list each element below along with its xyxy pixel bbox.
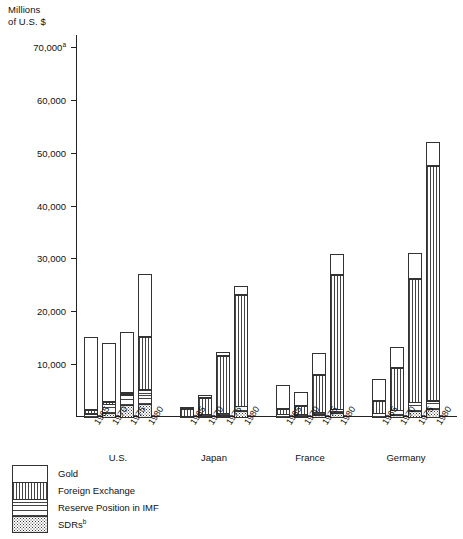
legend-label-gold: Gold [58,468,78,479]
legend-item-gold: Gold [12,465,159,482]
bar-germany-1975 [408,251,422,417]
y-tick-label-40000: 40,000 [4,200,66,211]
country-label-france: France [295,452,325,463]
y-tick-10000 [71,364,77,365]
y-axis-line [76,35,77,417]
bar-germany-1980 [426,140,440,418]
segment-imf [138,390,152,405]
y-tick-20000 [71,311,77,312]
legend-swatch-sdrs [12,516,48,533]
segment-gold [294,392,308,406]
segment-fx [330,275,344,410]
y-tick-30000 [71,258,77,259]
y-axis-title: Millions of U.S. $ [8,4,46,28]
y-tick-70000 [71,47,77,48]
country-label-germany: Germany [386,452,425,463]
legend-item-foreign-exchange: Foreign Exchange [12,482,159,499]
segment-gold [390,347,404,368]
y-tick-label-50000: 50,000 [4,147,66,158]
y-tick-60000 [71,100,77,101]
segment-gold [330,254,344,275]
reserves-stacked-bar-chart: Millions of U.S. $ 70,000a60,00050,00040… [0,0,463,539]
plot-area: 70,000a60,00050,00040,00030,00020,00010,… [76,47,457,417]
segment-fx [426,166,440,402]
legend-label-sdrs-text: SDRs [58,520,83,531]
segment-gold [138,274,152,337]
segment-gold [102,343,116,402]
y-tick-label-70000: 70,000a [4,41,66,53]
y-tick-label-20000: 20,000 [4,306,66,317]
bar-japan-1980 [234,284,248,417]
bar-us-1980 [138,272,152,417]
segment-fx [234,295,248,407]
legend-label-reserve-position-imf: Reserve Position in IMF [58,502,159,513]
bar-france-1965 [276,384,290,418]
segment-gold [234,286,248,296]
chart-legend: Gold Foreign Exchange Reserve Position i… [12,465,159,533]
legend-swatch-gold [12,465,48,482]
segment-gold [312,353,326,375]
segment-gold [84,337,98,410]
legend-item-sdrs: SDRsb [12,516,159,533]
y-tick-footnote: a [62,41,66,48]
legend-item-reserve-position-imf: Reserve Position in IMF [12,499,159,516]
segment-gold [408,253,422,279]
y-tick-40000 [71,206,77,207]
segment-fx [138,337,152,390]
legend-swatch-reserve-position-imf [12,499,48,516]
y-tick-label-60000: 60,000 [4,94,66,105]
legend-label-sdrs-footnote: b [83,518,87,525]
segment-gold [276,385,290,409]
y-tick-50000 [71,153,77,154]
country-label-us: U.S. [109,452,127,463]
bar-us-1965 [84,335,98,417]
segment-fx [408,279,422,403]
country-label-japan: Japan [201,452,227,463]
y-tick-label-30000: 30,000 [4,253,66,264]
segment-gold [120,332,134,393]
legend-swatch-foreign-exchange [12,482,48,499]
bar-germany-1965 [372,378,386,417]
segment-fx [372,401,386,414]
segment-gold [372,379,386,401]
y-tick-label-10000: 10,000 [4,359,66,370]
legend-label-sdrs: SDRsb [58,518,86,530]
segment-gold [426,142,440,166]
bar-france-1980 [330,252,344,417]
legend-label-foreign-exchange: Foreign Exchange [58,485,135,496]
